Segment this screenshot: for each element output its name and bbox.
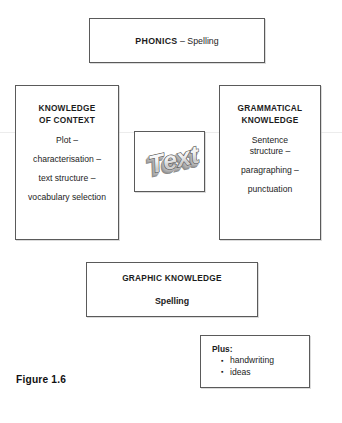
plus-list-item: ideas (230, 367, 309, 379)
svg-text:Text: Text (146, 139, 203, 178)
phonics-line: PHONICS – Spelling (135, 36, 218, 46)
plus-list-item: handwriting (230, 355, 309, 367)
grammatical-knowledge-title-line1: GRAMMATICAL (238, 103, 303, 115)
figure-page: PHONICS – Spelling KNOWLEDGE OF CONTEXT … (0, 0, 342, 423)
grammatical-knowledge-box: GRAMMATICAL KNOWLEDGE Sentence structure… (219, 85, 321, 240)
figure-caption: Figure 1.6 (16, 374, 66, 385)
phonics-box-content: PHONICS – Spelling (90, 19, 264, 62)
knowledge-of-context-title-line2: OF CONTEXT (38, 115, 95, 127)
knowledge-of-context-item: vocabulary selection (28, 192, 106, 203)
knowledge-of-context-box: KNOWLEDGE OF CONTEXT Plot – characterisa… (15, 85, 119, 240)
graphic-knowledge-title: GRAPHIC KNOWLEDGE (122, 273, 222, 285)
grammatical-knowledge-item: paragraphing – (241, 165, 299, 176)
plus-title: Plus: (212, 344, 309, 355)
knowledge-of-context-content: KNOWLEDGE OF CONTEXT Plot – characterisa… (16, 86, 118, 239)
plus-list: handwriting ideas (212, 355, 309, 378)
knowledge-of-context-item: text structure – (39, 173, 96, 184)
grammatical-knowledge-item: Sentence (252, 135, 288, 146)
phonics-separator: – (178, 36, 188, 46)
phonics-box: PHONICS – Spelling (89, 18, 265, 63)
text-wordart-box: Text Text Text Text Text (134, 131, 205, 192)
grammatical-knowledge-title-line2: KNOWLEDGE (238, 115, 303, 127)
knowledge-of-context-item: characterisation – (33, 154, 101, 165)
grammatical-knowledge-content: GRAMMATICAL KNOWLEDGE Sentence structure… (220, 86, 320, 239)
plus-box: Plus: handwriting ideas (200, 335, 310, 388)
knowledge-of-context-title: KNOWLEDGE OF CONTEXT (38, 103, 95, 126)
knowledge-of-context-item: Plot – (56, 135, 78, 146)
grammatical-knowledge-item: punctuation (248, 184, 292, 195)
graphic-knowledge-box: GRAPHIC KNOWLEDGE Spelling (86, 262, 258, 317)
knowledge-of-context-title-line1: KNOWLEDGE (38, 103, 95, 115)
graphic-knowledge-subtitle: Spelling (155, 296, 189, 306)
graphic-knowledge-content: GRAPHIC KNOWLEDGE Spelling (87, 263, 257, 316)
grammatical-knowledge-item: structure – (250, 146, 291, 157)
grammatical-knowledge-title: GRAMMATICAL KNOWLEDGE (238, 103, 303, 126)
phonics-title: PHONICS (135, 36, 177, 46)
phonics-subtitle: Spelling (187, 36, 218, 46)
plus-box-content: Plus: handwriting ideas (201, 336, 309, 387)
text-wordart: Text Text Text Text Text (135, 132, 204, 191)
